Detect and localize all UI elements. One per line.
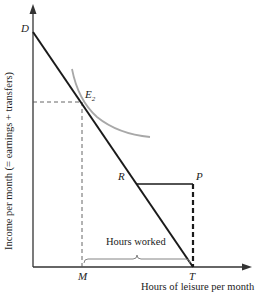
label-p: P xyxy=(196,170,203,182)
hours-worked-label: Hours worked xyxy=(106,236,166,247)
budget-line-dt xyxy=(33,32,193,267)
diagram-canvas xyxy=(0,0,265,294)
label-d: D xyxy=(21,22,29,34)
label-e2: E2 xyxy=(85,88,95,103)
label-m: M xyxy=(78,270,87,282)
label-r: R xyxy=(118,170,125,182)
y-axis-label: Income per month (= earnings + transfers… xyxy=(3,72,14,250)
y-axis-arrow-icon xyxy=(30,4,37,14)
hours-worked-brace xyxy=(84,255,190,263)
indifference-curve xyxy=(72,69,150,137)
x-axis-arrow-icon xyxy=(242,264,252,271)
x-axis-label: Hours of leisure per month xyxy=(141,281,254,292)
